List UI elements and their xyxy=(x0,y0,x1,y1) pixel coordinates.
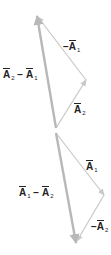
a2-minus-a1-arrow xyxy=(37,16,56,128)
label-neg-a1: −A1 xyxy=(63,42,80,53)
label-a1-minus-a2: A1 − A2 xyxy=(19,188,54,199)
label-neg-a2: −A2 xyxy=(91,222,108,233)
neg-a2-arrow xyxy=(77,195,104,241)
label-a2: A2 xyxy=(74,105,86,116)
label-a2-minus-a1: A2 − A1 xyxy=(3,70,38,81)
a2-arrow xyxy=(56,80,86,128)
vector-arrows xyxy=(0,0,111,255)
a1-minus-a2-arrow xyxy=(56,133,76,243)
label-a1: A1 xyxy=(86,162,98,173)
vector-subtraction-diagram: −A1 A2 A2 − A1 A1 −A2 A1 − A2 xyxy=(0,0,111,255)
